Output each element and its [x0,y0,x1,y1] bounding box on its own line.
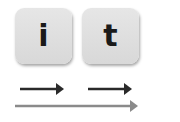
long-arrow-icon [15,100,138,112]
short-arrow-icon-1 [20,83,64,95]
arrows-diagram [0,0,180,122]
short-arrow-icon-2 [88,83,132,95]
